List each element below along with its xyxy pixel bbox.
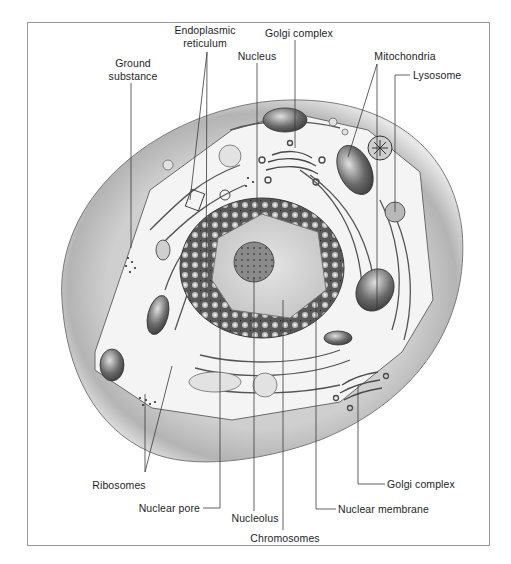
label-line: Ground: [109, 57, 158, 70]
label-line: Nucleolus: [231, 512, 278, 525]
label-chromosomes: Chromosomes: [250, 532, 319, 545]
label-line: Nuclear pore: [139, 502, 200, 515]
label-nuclear-pore: Nuclear pore: [139, 502, 200, 515]
label-lysosome: Lysosome: [413, 69, 461, 82]
label-line: Lysosome: [413, 69, 461, 82]
label-line: Nuclear membrane: [338, 503, 429, 516]
label-line: Nucleus: [238, 50, 277, 63]
label-golgi-complex-top: Golgi complex: [265, 27, 333, 40]
label-line: Golgi complex: [265, 27, 333, 40]
label-nuclear-membrane: Nuclear membrane: [338, 503, 429, 516]
label-line: Chromosomes: [250, 532, 319, 545]
label-line: substance: [109, 70, 158, 83]
label-line: reticulum: [174, 37, 235, 50]
label-nucleus: Nucleus: [238, 50, 277, 63]
label-line: Ribosomes: [92, 479, 145, 492]
label-line: Endoplasmic: [174, 24, 235, 37]
label-mitochondria: Mitochondria: [374, 50, 435, 63]
label-golgi-complex-bottom: Golgi complex: [387, 478, 455, 491]
nucleus: [180, 198, 344, 338]
label-line: Golgi complex: [387, 478, 455, 491]
label-line: Mitochondria: [374, 50, 435, 63]
label-endoplasmic-reticulum: Endoplasmicreticulum: [174, 24, 235, 50]
label-ground-substance: Groundsubstance: [109, 57, 158, 83]
label-ribosomes: Ribosomes: [92, 479, 145, 492]
label-nucleolus: Nucleolus: [231, 512, 278, 525]
